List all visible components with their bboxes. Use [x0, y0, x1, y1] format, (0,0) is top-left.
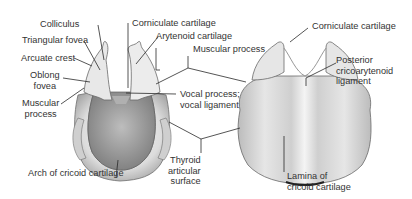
label-arcuate-crest: Arcuate crest — [21, 53, 75, 64]
label-lamina-line1: Lamina of — [287, 171, 351, 182]
label-vocal-process-line2: vocal ligament — [180, 100, 240, 111]
label-thyroid-articular: Thyroid articular surface — [168, 155, 201, 187]
label-posterior-cricoarytenoid: Posterior cricoarytenoid ligament — [336, 55, 393, 87]
label-posterior-line2: cricoarytenoid — [336, 66, 393, 77]
label-lamina-cricoid: Lamina of cricoid cartilage — [287, 171, 351, 192]
label-vocal-process-line1: Vocal process; — [180, 89, 240, 100]
label-oblong-fovea: Oblong fovea — [30, 70, 60, 91]
label-muscular-process-center: Muscular process — [193, 44, 265, 55]
label-muscular-process-left-line2: process — [22, 109, 59, 120]
label-arytenoid: Arytenoid cartilage — [156, 31, 232, 42]
label-lamina-line2: cricoid cartilage — [287, 182, 351, 193]
label-posterior-line3: ligament — [336, 76, 393, 87]
label-triangular-fovea: Triangular fovea — [22, 35, 88, 46]
label-thyroid-line1: Thyroid — [168, 155, 201, 166]
label-muscular-process-left: Muscular process — [22, 98, 59, 119]
label-oblong-fovea-line2: fovea — [30, 81, 60, 92]
label-arch-cricoid: Arch of cricoid cartilage — [28, 168, 124, 179]
label-oblong-fovea-line1: Oblong — [30, 70, 60, 81]
label-thyroid-line2: articular — [168, 166, 201, 177]
label-vocal-process: Vocal process; vocal ligament — [180, 89, 240, 110]
label-colliculus: Colliculus — [40, 19, 79, 30]
label-posterior-line1: Posterior — [336, 55, 393, 66]
label-thyroid-line3: surface — [168, 176, 201, 187]
label-muscular-process-left-line1: Muscular — [22, 98, 59, 109]
label-corniculate-center: Corniculate cartilage — [132, 18, 216, 29]
label-corniculate-right: Corniculate cartilage — [312, 21, 396, 32]
